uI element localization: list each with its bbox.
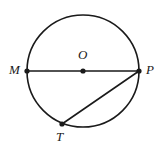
circle-diagram-canvas (0, 0, 166, 152)
point-O-dot (80, 68, 85, 73)
point-M-dot (24, 68, 29, 73)
geometry-figure: M O P T (0, 0, 166, 152)
point-P-dot (136, 68, 141, 73)
point-label-O: O (78, 48, 87, 61)
point-label-T: T (56, 130, 63, 143)
point-label-P: P (146, 63, 154, 76)
segment-TP-chord (62, 71, 139, 124)
point-label-M: M (9, 63, 20, 76)
point-T-dot (59, 121, 64, 126)
